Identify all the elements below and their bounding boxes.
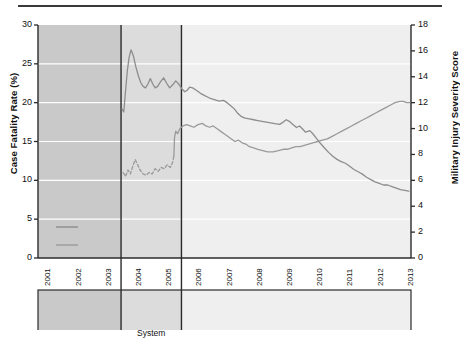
band-caption-strip-0 [38,290,121,330]
band-caption-strip-2 [181,290,411,330]
band-caption-strip-1 [121,290,181,330]
